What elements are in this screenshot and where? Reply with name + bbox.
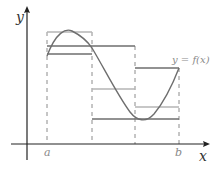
y-axis-arrow-icon (24, 6, 30, 13)
b-label: b (175, 146, 182, 159)
y-axis-label: y (15, 9, 25, 25)
upper-sum-steps (47, 32, 179, 107)
x-axis-label: x (199, 148, 207, 164)
riemann-sum-diagram: y x a b y = f(x) (0, 0, 221, 170)
a-label: a (44, 146, 51, 159)
axes (11, 9, 207, 160)
x-axis-arrow-icon (203, 141, 210, 147)
function-curve (47, 30, 179, 120)
partition-lines (47, 32, 179, 144)
curve-label: y = f(x) (171, 54, 210, 65)
